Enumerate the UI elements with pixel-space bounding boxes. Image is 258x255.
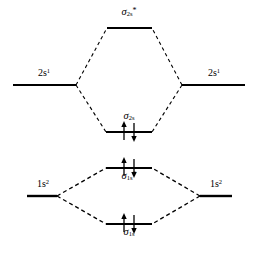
label-sigma-1s: σ1s [124,227,135,238]
label-sigma-1s-star: σ1s* [122,171,137,182]
subscript-2s: 2s [129,114,135,121]
label-sigma-2s: σ2s [124,111,135,122]
mo-diagram: σ2s* 2s1 2s1 σ2s σ1s* 1s2 1s2 σ1s [0,0,258,255]
subscript-1s: 1s [129,230,135,237]
atomic-2s-right-base: 2s [208,67,217,78]
spin-up-arrowhead-sigma-1s [121,213,126,219]
spin-down-arrowhead-sigma-2s [131,136,136,142]
atomic-1s-left-sup: 2 [46,178,49,185]
correlation-line-2s-right-upper [152,28,182,85]
label-atomic-2s-right: 2s1 [208,68,220,78]
correlation-lines-group [57,28,200,224]
atomic-2s-left-base: 2s [38,67,47,78]
atomic-2s-right-sup: 1 [217,67,220,74]
correlation-line-1s-right-upper [152,168,200,196]
spin-up-arrowhead-sigma-1s-star [121,157,126,163]
correlation-line-2s-right-lower [152,85,182,132]
label-atomic-1s-right: 1s2 [210,179,222,189]
correlation-line-1s-left-upper [57,168,106,196]
atomic-1s-left-base: 1s [37,178,46,189]
atomic-1s-right-sup: 2 [219,178,222,185]
atomic-2s-left-sup: 1 [47,67,50,74]
antibonding-star-1s: * [132,170,136,179]
label-sigma-2s-star: σ2s* [122,7,137,18]
label-atomic-2s-left: 2s1 [38,68,50,78]
correlation-line-1s-left-lower [57,196,106,224]
correlation-line-2s-left-lower [76,85,106,132]
energy-level-lines-group [13,28,245,224]
mo-diagram-canvas [0,0,258,255]
correlation-line-1s-right-lower [152,196,200,224]
correlation-line-2s-left-upper [76,28,107,85]
label-atomic-1s-left: 1s2 [37,179,49,189]
antibonding-star-2s: * [132,6,136,15]
atomic-1s-right-base: 1s [210,178,219,189]
